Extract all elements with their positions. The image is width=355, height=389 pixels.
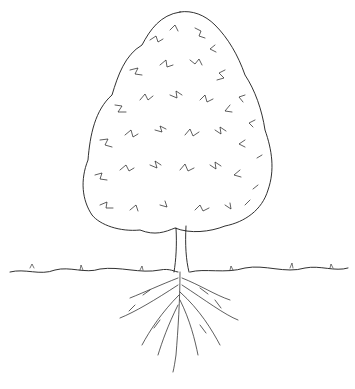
roots: [120, 272, 238, 372]
tree-drawing: [0, 0, 355, 389]
ground-line: [10, 263, 348, 272]
tree-illustration: Line drawing of a deciduous tree showing…: [0, 0, 355, 389]
crown: [83, 12, 272, 233]
trunk: [174, 226, 189, 272]
